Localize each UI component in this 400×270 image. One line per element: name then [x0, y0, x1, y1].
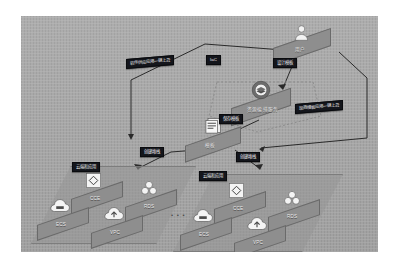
tag-create-stack-left: 创建堆栈 [140, 147, 164, 157]
node-user-label: 用户 [295, 46, 305, 52]
node-user[interactable]: 用户 [271, 24, 333, 58]
dots-cluster-icon [282, 190, 302, 206]
cluster-left-service-vpc[interactable]: VPC [91, 206, 149, 242]
ecs-left-label: ECS [56, 222, 66, 227]
cluster-right-service-vpc[interactable]: VPC [234, 216, 292, 252]
tag-iac: IaC [206, 55, 221, 65]
person-icon [293, 24, 310, 41]
diagram-canvas: 用户 资源编排服务 模板 [21, 16, 378, 252]
tag-create-stack-right: 创建堆栈 [236, 152, 260, 162]
tag-cloud-app-left: 云端和应用 [72, 162, 100, 172]
node-template-label: 模板 [205, 142, 215, 148]
gear-stack-icon [251, 80, 271, 100]
vpc-left-label: VPC [110, 230, 120, 235]
node-orchestration-label: 资源编排服务 [247, 106, 278, 112]
cloud-network-icon [246, 216, 268, 231]
ecs-right-label: ECS [199, 232, 209, 237]
cluster-separator: • • • [171, 212, 186, 218]
cluster-left-service-ecs[interactable]: ECS [37, 198, 95, 234]
cloud-server-icon [192, 208, 214, 223]
tag-design-template: 设计模板 [273, 58, 297, 68]
cloud-server-icon [49, 198, 71, 213]
cloud-network-icon [103, 206, 125, 221]
tag-cloud-app-right: 云端和应用 [199, 171, 227, 181]
vpc-right-label: VPC [253, 240, 263, 245]
cluster-right-service-ecs[interactable]: ECS [180, 208, 238, 244]
dots-cluster-icon [139, 180, 159, 196]
diamond-square-icon [85, 172, 102, 189]
diamond-square-icon [228, 182, 245, 199]
tag-save-template: 保存模板 [219, 114, 243, 124]
